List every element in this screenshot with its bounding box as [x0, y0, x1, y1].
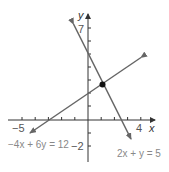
- x-axis-label: x: [148, 122, 155, 134]
- intersection-point: [100, 82, 106, 88]
- line-eq2: [74, 24, 132, 139]
- eq1-label: −4x + 6y = 12: [8, 139, 69, 150]
- line-eq1: [30, 58, 141, 134]
- graph: y 7 −5 4 x −2 −4x + 6y = 12 2x + y = 5: [0, 0, 169, 172]
- y-max-tick-label: 7: [78, 23, 84, 35]
- eq2-label: 2x + y = 5: [117, 148, 161, 159]
- x-min-tick-label: −5: [12, 122, 25, 134]
- y-min-tick-label: −2: [71, 140, 84, 152]
- y-axis-label: y: [77, 9, 85, 21]
- x-max-tick-label: 4: [136, 122, 142, 134]
